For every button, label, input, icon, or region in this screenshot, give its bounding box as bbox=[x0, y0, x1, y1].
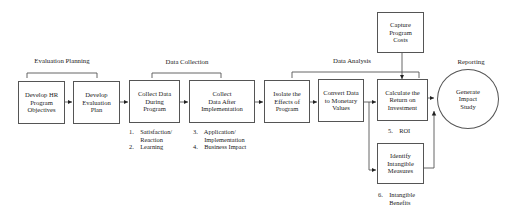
note-levels-3-4: 3. Application/ Implementation 4. Busine… bbox=[193, 128, 246, 151]
step-generate-study: Generate Impact Study bbox=[437, 69, 499, 129]
step-isolate-effects: Isolate the Effects of Program bbox=[264, 80, 310, 123]
step-develop-plan: Develop Evaluation Plan bbox=[73, 81, 120, 124]
phase-label-evaluation-planning: Evaluation Planning bbox=[34, 57, 89, 64]
step-convert-data: Convert Data to Monetary Values bbox=[318, 79, 364, 122]
step-develop-objectives: Develop HR Program Objectives bbox=[18, 81, 65, 124]
note-level-6: 6. Intangible Benefits bbox=[378, 191, 415, 206]
step-collect-after: Collect Data After Implementation bbox=[189, 80, 255, 123]
bracket-evaluation-planning bbox=[27, 73, 97, 78]
note-levels-1-2: 1. Satisfaction/ Reaction 2. Learning bbox=[129, 128, 172, 151]
step-collect-during: Collect Data During Program bbox=[129, 80, 180, 123]
step-capture-costs: Capture Program Costs bbox=[377, 12, 424, 53]
note-level-5: 5. ROI bbox=[388, 127, 410, 135]
bracket-data-analysis bbox=[292, 72, 419, 78]
phase-label-data-collection: Data Collection bbox=[166, 58, 209, 65]
bracket-data-collection bbox=[152, 73, 221, 78]
step-calculate-roi: Calculate the Return on Investment bbox=[377, 79, 428, 121]
phase-label-data-analysis: Data Analysis bbox=[333, 57, 371, 64]
phase-label-reporting: Reporting bbox=[457, 58, 484, 65]
step-identify-intangibles: Identify Intangible Measures bbox=[377, 143, 424, 184]
